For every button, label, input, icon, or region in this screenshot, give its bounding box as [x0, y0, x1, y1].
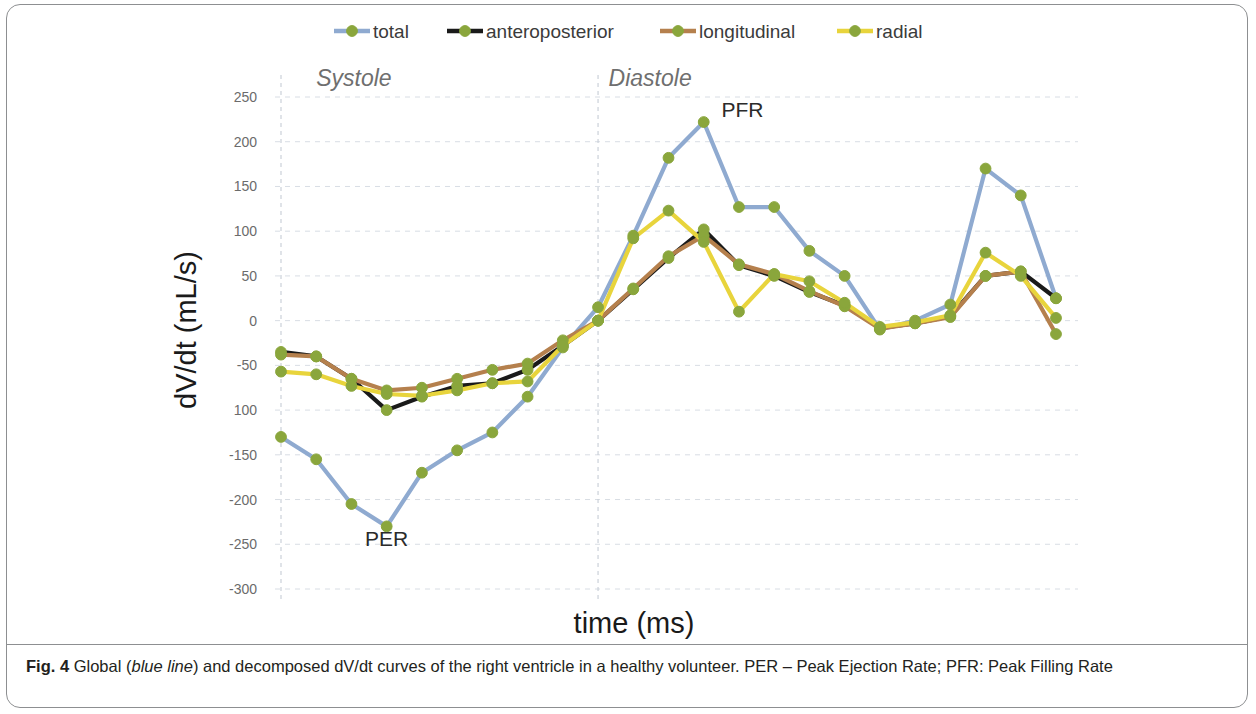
- series-markers-longitudinal: [276, 230, 1062, 396]
- legend-label-radial: radial: [876, 21, 922, 42]
- data-point: [452, 373, 463, 384]
- data-point: [839, 271, 850, 282]
- data-point: [276, 432, 287, 443]
- caption-divider: [7, 644, 1247, 645]
- data-point: [769, 202, 780, 213]
- chart-annotations: PERPFRSystoleDiastole: [316, 65, 763, 550]
- legend-marker-total: [347, 26, 358, 37]
- series-line-total: [281, 122, 1056, 526]
- data-point: [487, 427, 498, 438]
- data-point: [1015, 190, 1026, 201]
- data-point: [346, 499, 357, 510]
- phase-divider-group: [281, 75, 598, 599]
- y-tick-label: 100: [234, 223, 258, 239]
- dvdt-line-chart: 250200150100500-50100-150-200-250-300 PE…: [0, 0, 1256, 644]
- data-point: [945, 299, 956, 310]
- data-point: [734, 306, 745, 317]
- figure-caption: Fig. 4 Global (blue line) and decomposed…: [26, 654, 1222, 680]
- series-total: [281, 122, 1056, 526]
- data-point: [487, 364, 498, 375]
- data-point: [1051, 293, 1062, 304]
- data-point: [734, 202, 745, 213]
- caption-italic-blue-line: blue line: [131, 657, 192, 675]
- caption-text-part2: ) and decomposed dV/dt curves of the rig…: [193, 657, 1113, 675]
- y-axis-title: dV/dt (mL/s): [170, 251, 202, 409]
- data-point: [839, 297, 850, 308]
- data-point: [663, 251, 674, 262]
- series-markers-radial: [276, 205, 1062, 401]
- data-point: [698, 237, 709, 248]
- data-point: [276, 366, 287, 377]
- annotation-pfr: PFR: [721, 98, 763, 121]
- legend-marker-radial: [850, 26, 861, 37]
- data-point: [910, 317, 921, 328]
- data-point: [311, 454, 322, 465]
- data-point: [417, 390, 428, 401]
- data-point: [487, 378, 498, 389]
- legend-label-total: total: [373, 21, 409, 42]
- legend-marker-longitudinal: [673, 26, 684, 37]
- data-point: [804, 286, 815, 297]
- figure-number: Fig. 4: [26, 657, 69, 675]
- y-tick-label: 200: [234, 134, 258, 150]
- y-tick-label: -50: [237, 357, 257, 373]
- data-point: [980, 247, 991, 258]
- data-series-group: [276, 117, 1062, 532]
- y-tick-label: 250: [234, 89, 258, 105]
- data-point: [698, 117, 709, 128]
- legend-item-total[interactable]: total: [334, 21, 409, 42]
- data-point: [945, 310, 956, 321]
- data-point: [417, 467, 428, 478]
- y-tick-label: -300: [229, 581, 257, 597]
- annotation-per: PER: [365, 527, 408, 550]
- chart-plot-area: 250200150100500-50100-150-200-250-300 PE…: [0, 0, 1256, 644]
- data-point: [980, 163, 991, 174]
- data-point: [346, 381, 357, 392]
- x-axis-title: time (ms): [574, 607, 695, 639]
- data-point: [804, 276, 815, 287]
- series-line-radial: [281, 211, 1056, 396]
- legend-item-anteroposterior[interactable]: anteroposterior: [447, 21, 614, 42]
- y-tick-label: -150: [229, 447, 257, 463]
- series-markers-total: [276, 117, 1062, 532]
- y-tick-label: -200: [229, 492, 257, 508]
- data-point: [381, 389, 392, 400]
- legend-label-anteroposterior: anteroposterior: [486, 21, 614, 42]
- data-point: [980, 271, 991, 282]
- y-tick-label: 0: [249, 313, 257, 329]
- legend-item-longitudinal[interactable]: longitudinal: [660, 21, 795, 42]
- data-point: [874, 321, 885, 332]
- annotation-systole: Systole: [316, 65, 391, 91]
- data-point: [804, 245, 815, 256]
- data-point: [522, 391, 533, 402]
- data-point: [557, 340, 568, 351]
- y-tick-label: 50: [241, 268, 257, 284]
- data-point: [769, 269, 780, 280]
- legend-label-longitudinal: longitudinal: [699, 21, 795, 42]
- data-point: [593, 315, 604, 326]
- data-point: [381, 405, 392, 416]
- caption-text-part1: Global (: [69, 657, 131, 675]
- data-point: [628, 233, 639, 244]
- data-point: [628, 283, 639, 294]
- data-point: [311, 351, 322, 362]
- legend-marker-anteroposterior: [460, 26, 471, 37]
- y-tick-label: 100: [234, 402, 258, 418]
- series-radial: [281, 211, 1056, 396]
- data-point: [522, 358, 533, 369]
- y-axis-tick-labels: 250200150100500-50100-150-200-250-300: [229, 89, 257, 597]
- data-point: [452, 385, 463, 396]
- annotation-diastole: Diastole: [609, 65, 692, 91]
- data-point: [734, 259, 745, 270]
- y-tick-label: -250: [229, 536, 257, 552]
- data-point: [452, 445, 463, 456]
- data-point: [1051, 313, 1062, 324]
- data-point: [663, 205, 674, 216]
- data-point: [1015, 271, 1026, 282]
- chart-legend: totalanteroposteriorlongitudinalradial: [334, 21, 922, 42]
- data-point: [276, 349, 287, 360]
- data-point: [663, 152, 674, 163]
- y-tick-label: 150: [234, 178, 258, 194]
- legend-item-radial[interactable]: radial: [837, 21, 922, 42]
- data-point: [593, 302, 604, 313]
